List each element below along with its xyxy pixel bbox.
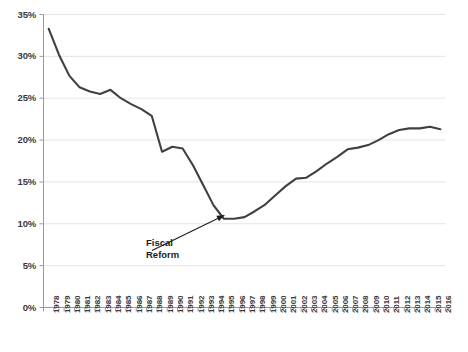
x-axis-tick-label: 1998 <box>258 295 267 312</box>
annotation-line-2: Reform <box>146 249 179 261</box>
x-axis-tick-label: 1996 <box>238 295 247 312</box>
x-axis-tick-label: 1983 <box>104 295 113 312</box>
x-axis-tick-label: 1991 <box>186 295 195 312</box>
x-axis-tick-label: 2005 <box>331 295 340 312</box>
x-axis-tick-label: 2011 <box>392 296 401 313</box>
x-axis-tick-label: 2002 <box>300 295 309 312</box>
x-axis-tick-label: 2015 <box>434 295 443 312</box>
y-axis-tick-label: 5% <box>4 260 36 271</box>
x-axis-tick-label: 2006 <box>341 295 350 312</box>
x-axis-tick-label: 1979 <box>63 295 72 312</box>
x-axis-tick-label: 1981 <box>83 295 92 312</box>
x-axis-tick-label: 1984 <box>114 295 123 312</box>
x-axis-tick-label: 1997 <box>248 295 257 312</box>
annotation-line-1: Fiscal <box>146 237 179 249</box>
x-axis-tick-label: 1982 <box>93 295 102 312</box>
line-chart: 0%5%10%15%20%25%30%35% 19781979198019811… <box>0 0 468 352</box>
x-axis-tick-label: 2003 <box>310 295 319 312</box>
y-axis-tick-label: 0% <box>4 302 36 313</box>
data-series-line <box>49 29 441 219</box>
x-axis-tick-label: 2004 <box>320 295 329 312</box>
fiscal-reform-annotation: Fiscal Reform <box>146 237 179 261</box>
x-axis-tick-label: 2016 <box>444 295 453 312</box>
x-axis-tick-label: 1980 <box>73 295 82 312</box>
x-axis-tick-label: 1995 <box>227 295 236 312</box>
x-axis-tick-label: 1989 <box>166 295 175 312</box>
x-axis-tick-label: 2014 <box>423 295 432 312</box>
x-axis-tick-label: 2010 <box>382 295 391 312</box>
y-axis-tick-label: 25% <box>4 92 36 103</box>
y-axis-tick-label: 10% <box>4 218 36 229</box>
y-axis-tick-label: 35% <box>4 9 36 20</box>
x-axis-tick-label: 1990 <box>176 295 185 312</box>
y-axis-tick-label: 30% <box>4 50 36 61</box>
x-axis-tick-label: 2012 <box>403 295 412 312</box>
x-axis-tick-label: 1985 <box>124 295 133 312</box>
x-axis-tick-label: 2000 <box>279 295 288 312</box>
x-axis-tick-label: 2008 <box>361 295 370 312</box>
x-axis-tick-label: 1992 <box>197 295 206 312</box>
x-axis-tick-label: 2001 <box>289 295 298 312</box>
x-axis-tick-label: 1988 <box>155 295 164 312</box>
x-axis-tick-label: 1999 <box>269 295 278 312</box>
x-axis-tick-label: 2009 <box>372 295 381 312</box>
x-axis-tick-label: 1987 <box>145 295 154 312</box>
x-axis-tick-label: 2007 <box>351 295 360 312</box>
x-axis-tick-label: 1986 <box>135 295 144 312</box>
x-axis-tick-label: 1994 <box>217 295 226 312</box>
x-axis-tick-label: 1978 <box>52 295 61 312</box>
x-axis-tick-label: 2013 <box>413 295 422 312</box>
y-axis-tick-label: 20% <box>4 134 36 145</box>
y-axis-tick-label: 15% <box>4 176 36 187</box>
x-axis-tick-label: 1993 <box>207 295 216 312</box>
